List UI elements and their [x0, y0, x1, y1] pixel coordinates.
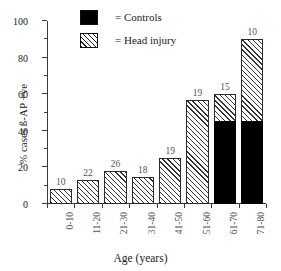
x-tick [47, 204, 48, 208]
y-tick-label: 20 [18, 162, 28, 173]
x-category-label: 71-80 [256, 212, 266, 234]
y-axis-line [47, 21, 48, 204]
bar-segment-head-injury [186, 100, 208, 204]
bar-chart-figure: = Controls = Head injury % cases ß-AP +v… [0, 0, 281, 271]
y-tick-minor [44, 112, 47, 113]
x-axis-title: Age (years) [0, 252, 281, 264]
plot-area: 020406080100 1022261819191510 [47, 21, 266, 204]
bar-segment-head-injury [77, 180, 99, 204]
bar-value-label: 10 [248, 27, 258, 37]
x-category-label: 51-60 [202, 212, 212, 234]
bar: 15 [214, 94, 236, 204]
x-category-label: 31-40 [147, 212, 157, 234]
y-tick-minor [44, 185, 47, 186]
bar-segment-head-injury [132, 177, 154, 204]
bar-segment-controls [241, 121, 263, 204]
bar: 10 [241, 39, 263, 204]
y-tick-label: 40 [18, 125, 28, 136]
x-category-label: 21-30 [119, 212, 129, 234]
y-tick-major [42, 166, 47, 167]
y-tick-minor [44, 148, 47, 149]
y-tick-label: 60 [18, 89, 28, 100]
y-axis-title: % cases ß-AP +ve [17, 49, 29, 199]
y-tick-minor [44, 75, 47, 76]
bar-value-label: 18 [138, 165, 148, 175]
x-tick [211, 204, 212, 208]
bar-value-label: 19 [193, 88, 203, 98]
x-category-label: 61-70 [229, 212, 239, 234]
bar: 19 [186, 100, 208, 204]
y-tick-minor [44, 38, 47, 39]
x-tick [129, 204, 130, 208]
bar-value-label: 15 [220, 82, 230, 92]
y-tick-label: 0 [23, 199, 28, 210]
y-tick-major [42, 20, 47, 21]
y-tick-major [42, 57, 47, 58]
bar-value-label: 26 [111, 159, 121, 169]
x-tick [157, 204, 158, 208]
bar: 26 [104, 171, 126, 204]
bar-segment-head-injury [159, 158, 181, 204]
x-category-label: 0-10 [65, 212, 75, 229]
bar: 18 [132, 177, 154, 204]
x-tick [102, 204, 103, 208]
x-tick [184, 204, 185, 208]
bar-segment-head-injury [104, 171, 126, 204]
bar-segment-controls [214, 121, 236, 204]
bar-value-label: 10 [56, 177, 66, 187]
bar: 22 [77, 180, 99, 204]
y-tick-major [42, 130, 47, 131]
x-category-label: 11-20 [92, 212, 102, 234]
y-tick-label: 100 [13, 16, 28, 27]
x-category-label: 41-50 [174, 212, 184, 234]
bar-value-label: 22 [83, 168, 93, 178]
bar: 19 [159, 158, 181, 204]
bar-value-label: 19 [165, 146, 175, 156]
bar: 10 [50, 189, 72, 204]
y-tick-label: 80 [18, 52, 28, 63]
x-tick [74, 204, 75, 208]
x-tick [266, 204, 267, 208]
y-tick-major [42, 93, 47, 94]
x-tick [239, 204, 240, 208]
bar-segment-head-injury [50, 189, 72, 204]
